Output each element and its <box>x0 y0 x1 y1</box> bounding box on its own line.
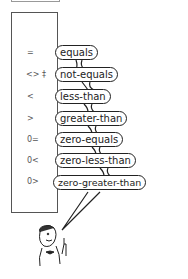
label-zero-greater-than: zero-greater-than <box>53 175 146 190</box>
label-less-than: less-than <box>55 89 111 104</box>
label-equals: equals <box>55 45 98 60</box>
cartoon-man-icon <box>39 225 66 266</box>
label-greater-than: greater-than <box>55 111 127 126</box>
label-not-equals: not-equals <box>55 67 118 82</box>
label-zero-equals: zero-equals <box>55 132 123 147</box>
label-zero-less-than: zero-less-than <box>55 153 136 168</box>
